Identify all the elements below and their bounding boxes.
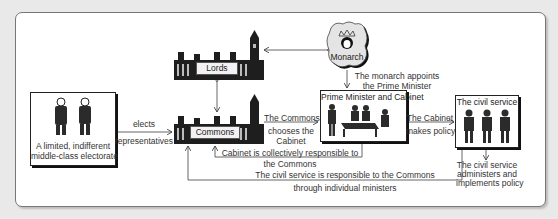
lords-building: Lords	[174, 30, 264, 82]
civil-responsible-label-1: The civil service is responsible to the …	[240, 170, 450, 180]
monarch-appoints-label-2: the Prime Minister	[352, 81, 442, 91]
electorate-caption-1: A limited, indifferent	[31, 141, 115, 151]
cabinet-title: Prime Minister and Cabinet	[321, 92, 406, 102]
commons-chooses-label-2: chooses the	[264, 126, 318, 136]
electorate-caption-2: middle-class electorate	[31, 151, 115, 161]
cabinet-responsible-label-2: the Commons	[220, 159, 360, 169]
monarch-cloud-icon	[325, 20, 369, 70]
cabinet-box: Prime Minister and Cabinet	[320, 90, 407, 142]
elects-label-1: elects	[118, 119, 170, 129]
electorate-box: A limited, indifferent middle-class elec…	[30, 92, 116, 166]
civil-responsible-label-2: through individual ministers	[240, 183, 450, 193]
cabinet-policy-label-2: makes policy	[406, 126, 454, 136]
cabinet-responsible-label-1: Cabinet is collectively responsible to	[220, 148, 360, 158]
civil-service-title: The civil service	[456, 97, 518, 107]
commons-building: Commons	[174, 94, 264, 146]
civil-servants-icon	[461, 109, 515, 145]
electorate-people-icon	[49, 97, 99, 137]
lords-label: Lords	[196, 62, 238, 75]
monarch-node: Monarch	[325, 20, 369, 70]
monarch-appoints-label-1: The monarch appoints	[352, 71, 442, 81]
elects-label-2: representatives	[114, 136, 174, 146]
civil-service-box: The civil service	[455, 95, 519, 148]
cabinet-meeting-icon	[325, 103, 403, 139]
cabinet-policy-label-1: The Cabinet	[406, 113, 454, 123]
civil-administers-label-3: implements policy	[456, 178, 518, 188]
commons-label: Commons	[190, 126, 240, 139]
monarch-label: Monarch	[325, 52, 369, 62]
commons-chooses-label-1: The Commons	[264, 113, 318, 123]
commons-chooses-label-3: Cabinet	[264, 136, 318, 146]
